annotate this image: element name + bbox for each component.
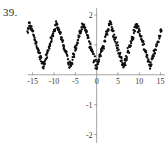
data-point <box>35 41 37 43</box>
data-point <box>71 59 73 61</box>
data-point <box>48 47 50 49</box>
data-point <box>126 59 128 61</box>
axes-group <box>28 8 165 143</box>
data-point <box>81 28 83 30</box>
data-point <box>77 42 79 44</box>
data-point <box>112 30 114 32</box>
data-point <box>80 30 82 32</box>
data-point <box>92 53 94 55</box>
data-point <box>110 23 112 25</box>
data-point <box>29 22 31 24</box>
data-point <box>40 57 42 59</box>
y-tick-label: -1 <box>86 101 93 110</box>
data-point <box>107 29 109 31</box>
data-point <box>137 26 139 28</box>
data-point <box>132 37 134 39</box>
x-tick-label: 0 <box>95 77 99 86</box>
data-point <box>113 34 115 36</box>
data-point <box>32 30 34 32</box>
data-point <box>143 43 145 45</box>
data-point <box>95 59 97 61</box>
y-tick-label: -2 <box>86 131 93 140</box>
data-point <box>142 41 144 43</box>
data-point <box>30 25 32 27</box>
x-tick-label: 5 <box>116 77 120 86</box>
data-point <box>58 29 60 31</box>
data-point <box>160 30 162 32</box>
data-point <box>84 26 86 28</box>
data-point <box>60 31 62 33</box>
data-point <box>46 56 48 58</box>
data-point <box>66 55 68 57</box>
data-point <box>44 63 46 65</box>
data-point <box>145 51 147 53</box>
data-point <box>73 56 75 58</box>
x-tick-label: -5 <box>72 77 79 86</box>
data-point <box>75 44 77 46</box>
data-point <box>52 35 54 37</box>
data-point <box>92 50 94 52</box>
data-point <box>124 64 126 66</box>
data-point <box>146 54 148 56</box>
data-point <box>33 37 35 39</box>
data-point <box>155 49 157 51</box>
data-point <box>47 49 49 51</box>
data-point <box>111 28 113 30</box>
data-point <box>61 37 63 39</box>
data-point <box>120 57 122 59</box>
data-point <box>152 57 154 59</box>
data-point <box>49 45 51 47</box>
data-point <box>106 33 108 35</box>
data-point <box>117 44 119 46</box>
data-point <box>63 45 65 47</box>
data-point <box>87 37 89 39</box>
data-point <box>128 52 130 54</box>
data-point <box>67 58 69 60</box>
data-point <box>75 47 77 49</box>
data-point <box>51 38 53 40</box>
data-point <box>46 52 48 54</box>
data-point <box>103 45 105 47</box>
data-point <box>94 55 96 57</box>
data-point <box>86 31 88 33</box>
data-point <box>116 41 118 43</box>
data-point <box>83 24 85 26</box>
data-point <box>104 40 106 42</box>
data-point <box>39 52 41 54</box>
data-point <box>73 54 75 56</box>
data-point <box>157 41 159 43</box>
data-point <box>149 61 151 63</box>
data-point <box>115 36 117 38</box>
data-point <box>27 32 29 34</box>
data-point <box>101 50 103 52</box>
x-tick-label: -15 <box>27 77 38 86</box>
data-point <box>130 42 132 44</box>
data-point <box>88 41 90 43</box>
data-point <box>38 50 40 52</box>
data-point <box>43 65 45 67</box>
data-point <box>78 35 80 37</box>
data-point <box>56 23 58 25</box>
data-point <box>134 30 136 32</box>
data-point <box>96 66 98 68</box>
data-point <box>89 43 91 45</box>
data-point <box>118 49 120 51</box>
data-point <box>156 44 158 46</box>
data-point <box>147 58 149 60</box>
x-tick-label: 10 <box>135 77 143 86</box>
data-point <box>140 35 142 37</box>
data-point <box>42 67 44 69</box>
data-point <box>154 52 156 54</box>
data-point <box>138 30 140 32</box>
y-tick-label: 2 <box>89 11 93 20</box>
data-point <box>62 39 64 41</box>
x-tick-label: -10 <box>49 77 60 86</box>
data-point <box>121 59 123 61</box>
data-point <box>71 63 73 65</box>
data-point <box>126 56 128 58</box>
data-point <box>50 40 52 42</box>
data-point <box>100 55 102 57</box>
data-point <box>77 39 79 41</box>
data-point <box>159 35 161 37</box>
x-tick-label: 15 <box>157 77 165 86</box>
